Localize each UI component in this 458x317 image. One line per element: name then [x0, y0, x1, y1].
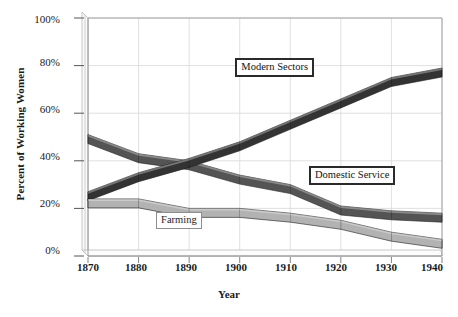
plot-area [0, 0, 458, 317]
series-annotation-domestic-service: Domestic Service [309, 166, 395, 185]
data-ribbons [88, 68, 442, 248]
series-annotation-farming: Farming [156, 212, 202, 229]
series-annotation-modern-sectors: Modern Sectors [235, 58, 314, 77]
chart-container: Percent of Working Women 100% 80% 60% 40… [0, 0, 458, 317]
ribbon-farming [88, 199, 442, 248]
